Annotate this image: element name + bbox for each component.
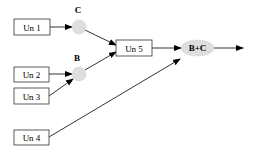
box-un4-label: Un 4: [23, 133, 41, 143]
box-un5: Un 5: [116, 40, 152, 56]
box-un1: Un 1: [14, 19, 50, 35]
node-c: C: [72, 5, 86, 34]
box-un4: Un 4: [14, 130, 49, 145]
box-un3-label: Un 3: [23, 92, 41, 102]
edge-b-un5: [85, 52, 116, 70]
node-bc: B+C: [181, 40, 214, 56]
node-bc-label: B+C: [189, 43, 207, 53]
node-b: B: [72, 53, 86, 81]
edge-c-un5: [85, 30, 116, 45]
box-un2-label: Un 2: [23, 70, 41, 80]
node-b-label: B: [74, 53, 80, 63]
box-un3: Un 3: [14, 88, 49, 104]
box-un5-label: Un 5: [125, 44, 143, 54]
box-un1-label: Un 1: [23, 23, 41, 33]
edge-un4-bc: [49, 59, 180, 137]
box-un2: Un 2: [14, 67, 49, 82]
node-c-label: C: [75, 5, 82, 15]
edge-un3-b: [49, 79, 73, 96]
diagram-canvas: Un 1 Un 2 Un 3 Un 4 Un 5 C B B+C: [0, 0, 255, 155]
